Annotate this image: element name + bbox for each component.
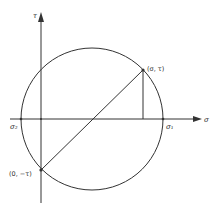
point-sigma-tau	[141, 68, 144, 71]
point-zero-neg-tau	[39, 168, 42, 171]
mohr-circle-diagram: τ σ (σ, τ) (0, −τ) σ₂ σ₁	[0, 0, 219, 212]
sigma-axis-arrow-icon	[193, 116, 202, 122]
sigma-axis-label: σ	[204, 116, 209, 124]
sigma1-label: σ₁	[166, 123, 174, 131]
tau-axis-arrow-icon	[38, 12, 44, 22]
point-sigma1	[162, 118, 165, 121]
point-sigma2	[20, 118, 23, 121]
diameter-line	[41, 70, 143, 170]
tau-axis-label: τ	[33, 12, 37, 20]
sigma2-label: σ₂	[10, 123, 18, 131]
point-sigma-tau-label: (σ, τ)	[147, 65, 164, 73]
point-origin	[40, 118, 42, 120]
point-zero-neg-tau-label: (0, −τ)	[9, 170, 32, 178]
